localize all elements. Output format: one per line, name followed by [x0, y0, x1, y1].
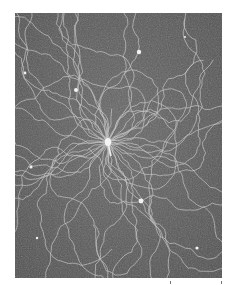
- tick-mark: [170, 281, 171, 284]
- tick-mark: [221, 281, 222, 284]
- dna-strands-figure: [15, 13, 222, 278]
- micrograph-image: [15, 13, 222, 278]
- film-grain: [15, 13, 222, 278]
